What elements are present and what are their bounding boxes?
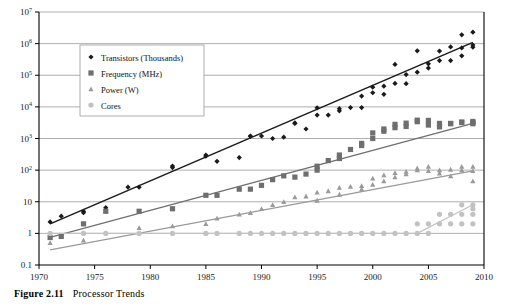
figure-number: Figure 2.11 [14,288,64,299]
y-tick-label: 103 [20,133,32,144]
figure-processor-trends: 0.11101021031041051061071970197519801985… [0,0,508,306]
x-tick-label: 1985 [197,272,216,282]
data-point-circle [170,231,175,236]
data-point-circle [103,231,108,236]
data-point-square [404,124,409,129]
data-point-circle [281,231,286,236]
data-point-circle [437,221,442,226]
data-point-square [370,136,375,141]
data-point-square [426,118,431,123]
data-point-circle [48,231,53,236]
y-tick-label: 105 [20,70,32,81]
x-tick-label: 1995 [308,272,327,282]
data-point-square [470,120,475,125]
data-point-square [203,193,208,198]
data-point-square [237,187,242,192]
data-point-circle [448,212,453,217]
legend: Transistors (Thousands)Frequency (MHz)Po… [80,45,204,116]
data-point-circle [470,221,475,226]
data-point-square [214,193,219,198]
data-point-square [315,164,320,169]
x-tick-label: 1990 [253,272,272,282]
data-point-square [381,126,386,131]
y-tick-label: 104 [20,101,32,112]
data-point-square [59,234,64,239]
y-axis-labels: 0.1110102103104105106107 [20,7,39,271]
data-point-circle [214,231,219,236]
data-point-square [392,122,397,127]
data-point-circle [88,102,93,107]
data-point-circle [459,212,464,217]
data-point-circle [137,231,142,236]
data-point-circle [470,212,475,217]
data-point-circle [459,221,464,226]
y-tick-label: 10 [23,197,33,207]
data-point-square [415,118,420,123]
data-point-circle [470,202,475,207]
legend-label: Transistors (Thousands) [101,53,183,63]
x-axis-labels: 197019751980198519901995200020052010 [30,265,494,282]
data-point-circle [81,231,86,236]
data-point-square [426,122,431,127]
data-point-square [248,187,253,192]
x-tick-label: 1980 [141,272,160,282]
data-point-square [370,130,375,135]
data-point-circle [203,231,208,236]
legend-label: Power (W) [101,85,139,95]
data-point-square [103,209,108,214]
processor-trends-chart: 0.11101021031041051061071970197519801985… [0,0,508,306]
data-point-circle [315,231,320,236]
data-point-circle [337,231,342,236]
data-point-circle [259,231,264,236]
y-tick-label: 102 [20,165,32,176]
data-point-square [137,209,142,214]
data-point-square [459,119,464,124]
data-point-circle [359,231,364,236]
data-point-square [437,124,442,129]
data-point-square [326,158,331,163]
data-point-square [170,206,175,211]
data-point-square [303,171,308,176]
data-point-circle [248,231,253,236]
figure-title: Processor Trends [73,288,145,299]
x-tick-label: 2010 [475,272,494,282]
legend-label: Frequency (MHz) [101,69,162,79]
data-point-circle [326,231,331,236]
x-tick-label: 2005 [419,272,438,282]
data-point-circle [237,231,242,236]
data-point-square [359,141,364,146]
y-tick-label: 0.1 [21,260,32,270]
data-point-square [88,70,93,75]
x-tick-label: 1970 [30,272,49,282]
data-point-circle [415,231,420,236]
data-point-circle [370,231,375,236]
data-point-circle [415,221,420,226]
data-point-circle [448,221,453,226]
data-point-square [448,121,453,126]
data-point-circle [426,231,431,236]
y-tick-label: 106 [20,38,32,49]
data-point-square [292,175,297,180]
data-point-circle [404,231,409,236]
data-point-circle [459,202,464,207]
data-point-circle [392,231,397,236]
data-point-circle [348,231,353,236]
data-point-circle [437,212,442,217]
y-tick-label: 1 [28,228,33,238]
x-tick-label: 2000 [364,272,383,282]
y-tick-label: 107 [20,7,32,18]
data-point-square [281,173,286,178]
data-point-circle [303,231,308,236]
figure-caption: Figure 2.11Processor Trends [14,288,145,299]
data-point-circle [381,231,386,236]
data-point-square [348,147,353,152]
data-point-square [337,152,342,157]
data-point-circle [426,221,431,226]
legend-label: Cores [101,101,121,111]
data-point-square [270,177,275,182]
data-point-circle [270,231,275,236]
data-point-square [259,183,264,188]
data-point-square [81,221,86,226]
data-point-circle [292,231,297,236]
x-tick-label: 1975 [86,272,105,282]
